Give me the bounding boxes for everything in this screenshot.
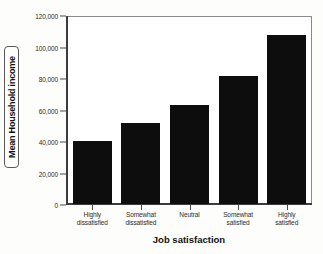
y-axis-tick-mark xyxy=(60,16,66,17)
x-axis-tick-mark xyxy=(238,205,239,210)
y-axis-tick-label: 120,000 xyxy=(35,13,58,20)
y-axis-tick-label: 40,000 xyxy=(39,139,58,146)
y-axis-tick-labels: 020,00040,00060,00080,000100,000120,000 xyxy=(20,16,58,205)
y-axis-tick-mark xyxy=(60,173,66,174)
x-axis-tick-label-line: Highly xyxy=(262,211,311,219)
x-axis-tick-label-line: Somewhat xyxy=(117,211,166,219)
x-axis-tick-label: Neutral xyxy=(165,211,214,219)
x-axis-tick-labels: HighlydissatisfiedSomewhatdissatisfiedNe… xyxy=(68,211,311,233)
x-axis-tick-mark xyxy=(190,205,191,210)
bar xyxy=(170,16,209,204)
bar-rect xyxy=(267,35,306,204)
x-axis-tick-label-line: Somewhat xyxy=(214,211,263,219)
y-axis-tick-mark xyxy=(60,205,66,206)
y-axis-tick-label: 20,000 xyxy=(39,170,58,177)
bar xyxy=(267,16,306,204)
y-axis-tick-label: 0 xyxy=(54,202,58,209)
bar-rect xyxy=(170,105,209,204)
y-axis-tick-mark xyxy=(60,110,66,111)
x-axis-tick-mark xyxy=(287,205,288,210)
y-axis-tick-label: 100,000 xyxy=(35,44,58,51)
bar xyxy=(73,16,112,204)
bar-rect xyxy=(219,76,258,204)
x-axis-tick-label: Somewhatsatisfied xyxy=(214,211,263,227)
x-axis-tick-label-line: dissatisfied xyxy=(68,219,117,227)
bar xyxy=(121,16,160,204)
x-axis-tick-label-line: Neutral xyxy=(165,211,214,219)
y-axis-title-label: Mean Household income xyxy=(7,56,17,158)
bar-chart-figure: 020,00040,00060,00080,000100,000120,000 … xyxy=(0,0,323,254)
x-axis-tick-label-line: Highly xyxy=(68,211,117,219)
x-axis-tick-label: Somewhatdissatisfied xyxy=(117,211,166,227)
y-axis-tick-mark xyxy=(60,142,66,143)
x-axis-tick-label-line: satisfied xyxy=(214,219,263,227)
x-axis-tick-label-line: satisfied xyxy=(262,219,311,227)
x-axis-tick-mark xyxy=(92,205,93,210)
y-axis-tick-mark xyxy=(60,47,66,48)
bar xyxy=(219,16,258,204)
x-axis-tick-mark xyxy=(141,205,142,210)
y-axis-title: Mean Household income xyxy=(4,46,19,168)
bars-layer xyxy=(68,16,311,204)
bar-rect xyxy=(121,123,160,204)
x-axis-tick-label: Highlydissatisfied xyxy=(68,211,117,227)
x-axis-tick-label: Highlysatisfied xyxy=(262,211,311,227)
y-axis-tick-label: 60,000 xyxy=(39,107,58,114)
x-axis-title: Job satisfaction xyxy=(66,234,312,245)
y-axis-tick-mark xyxy=(60,79,66,80)
bar-rect xyxy=(73,141,112,204)
x-axis-tick-label-line: dissatisfied xyxy=(117,219,166,227)
y-axis-tick-label: 80,000 xyxy=(39,76,58,83)
